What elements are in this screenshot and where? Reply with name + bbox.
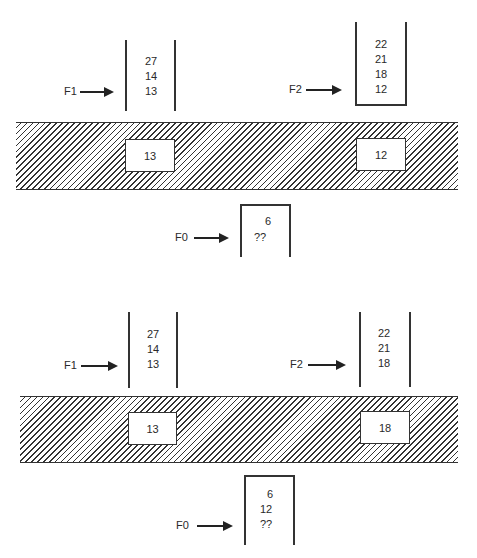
f0-label: F0 <box>176 519 189 532</box>
buffer-slot-left: 13 <box>128 412 177 445</box>
f1-label: F1 <box>64 85 77 98</box>
f1-value: 13 <box>138 358 168 371</box>
f0-top-wall <box>240 204 291 206</box>
f2-value: 22 <box>366 38 396 51</box>
f0-right-wall <box>293 475 295 545</box>
f1-value: 27 <box>138 328 168 341</box>
f1-value: 14 <box>138 343 168 356</box>
f0-value: ?? <box>251 518 281 531</box>
f2-pointer-arrow-icon <box>306 89 340 91</box>
f2-right-wall <box>405 22 407 105</box>
f2-left-wall <box>359 312 361 387</box>
f1-value: 14 <box>136 70 166 83</box>
f1-value: 13 <box>136 85 166 98</box>
f1-right-wall <box>174 40 176 111</box>
f1-left-wall <box>128 312 130 388</box>
f0-value: 12 <box>251 503 281 516</box>
f1-label: F1 <box>64 359 77 372</box>
f2-value: 21 <box>366 53 396 66</box>
f2-label: F2 <box>289 83 302 96</box>
buffer-slot-right: 12 <box>356 138 406 171</box>
f0-label: F0 <box>175 231 188 244</box>
f2-value: 18 <box>366 68 396 81</box>
f0-value: ?? <box>245 231 275 244</box>
buffer-slot-right: 18 <box>360 411 410 444</box>
f2-value: 21 <box>369 342 399 355</box>
f2-right-wall <box>409 312 411 387</box>
f0-pointer-arrow-icon <box>197 525 231 527</box>
f0-top-wall <box>244 475 294 477</box>
f2-left-wall <box>355 22 357 105</box>
f1-pointer-arrow-icon <box>81 365 116 367</box>
f0-value: 6 <box>253 215 283 228</box>
f0-left-wall <box>244 475 246 545</box>
f0-left-wall <box>240 204 242 257</box>
f1-right-wall <box>176 312 178 388</box>
f0-pointer-arrow-icon <box>194 237 227 239</box>
f1-value: 27 <box>136 55 166 68</box>
f2-value: 18 <box>369 357 399 370</box>
f1-left-wall <box>125 40 127 111</box>
f1-pointer-arrow-icon <box>80 91 112 93</box>
f2-value: 22 <box>369 327 399 340</box>
f2-pointer-arrow-icon <box>308 364 344 366</box>
f0-value: 6 <box>255 488 285 501</box>
f2-bottom-wall <box>355 104 407 106</box>
f2-label: F2 <box>290 358 303 371</box>
f0-right-wall <box>289 204 291 257</box>
buffer-slot-left: 13 <box>125 139 175 172</box>
f2-value: 12 <box>366 83 396 96</box>
